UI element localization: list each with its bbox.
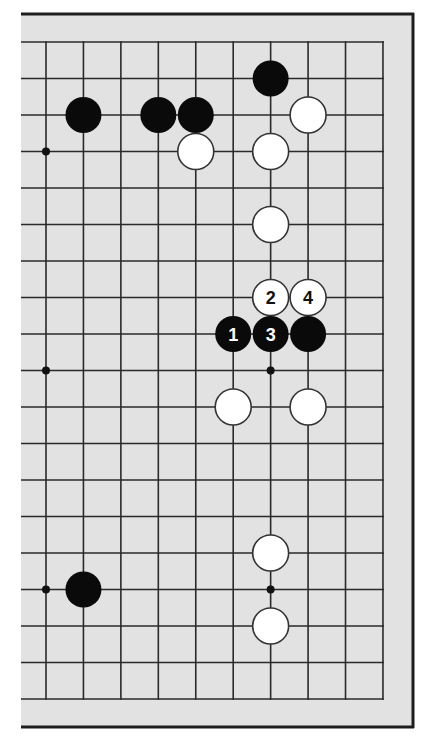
stone-disc xyxy=(290,316,326,352)
white-stone-4: 4 xyxy=(290,280,326,316)
stone-disc xyxy=(178,97,214,133)
black-stone-3: 3 xyxy=(253,316,289,352)
black-stone xyxy=(178,97,214,133)
white-stone xyxy=(290,389,326,425)
stone-disc xyxy=(253,535,289,571)
stone-disc xyxy=(178,134,214,170)
white-stone xyxy=(253,608,289,644)
stone-disc xyxy=(290,389,326,425)
stone-disc xyxy=(65,97,101,133)
move-number: 2 xyxy=(266,288,276,308)
stone-disc xyxy=(253,608,289,644)
move-number: 1 xyxy=(228,325,238,345)
star-point xyxy=(267,586,275,594)
go-diagram: 2413 xyxy=(0,0,425,741)
white-stone xyxy=(290,97,326,133)
stone-disc xyxy=(290,97,326,133)
white-stone xyxy=(253,535,289,571)
stone-disc xyxy=(253,134,289,170)
star-point xyxy=(42,586,50,594)
stone-disc xyxy=(215,389,251,425)
black-stone-1: 1 xyxy=(215,316,251,352)
stone-disc xyxy=(253,61,289,97)
star-point xyxy=(42,367,50,375)
white-stone xyxy=(253,207,289,243)
star-point xyxy=(267,367,275,375)
black-stone xyxy=(65,572,101,608)
stone-disc xyxy=(253,207,289,243)
black-stone xyxy=(290,316,326,352)
white-stone xyxy=(253,134,289,170)
black-stone xyxy=(65,97,101,133)
black-stone xyxy=(140,97,176,133)
move-number: 3 xyxy=(266,325,276,345)
star-point xyxy=(42,148,50,156)
stone-disc xyxy=(140,97,176,133)
black-stone xyxy=(253,61,289,97)
white-stone-2: 2 xyxy=(253,280,289,316)
move-number: 4 xyxy=(303,288,313,308)
white-stone xyxy=(215,389,251,425)
stone-disc xyxy=(65,572,101,608)
white-stone xyxy=(178,134,214,170)
